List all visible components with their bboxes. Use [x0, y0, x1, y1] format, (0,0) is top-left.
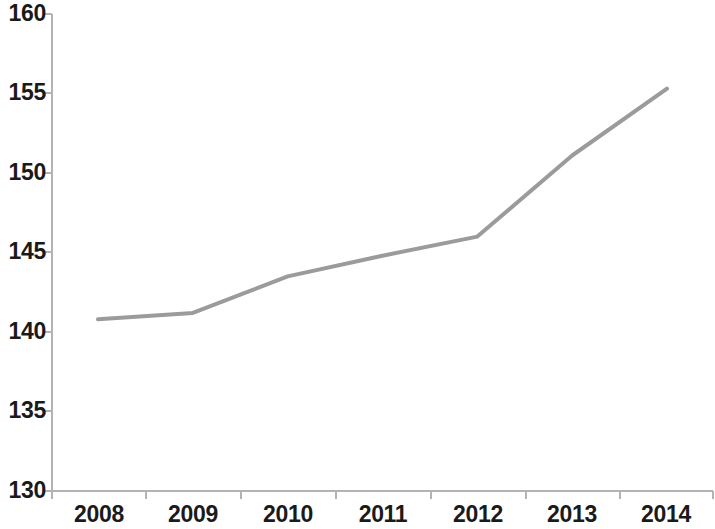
x-tick-label-2009: 2009 — [148, 503, 238, 526]
x-tick-label-2011: 2011 — [338, 503, 428, 526]
x-tick-label-2010: 2010 — [243, 503, 333, 526]
plot-area — [0, 0, 715, 529]
series-line — [98, 89, 667, 320]
y-tick-label-135: 135 — [0, 399, 46, 422]
x-tick-label-2012: 2012 — [433, 503, 523, 526]
x-axis-ticks — [52, 491, 713, 499]
y-tick-label-155: 155 — [0, 81, 46, 104]
y-tick-label-140: 140 — [0, 320, 46, 343]
y-tick-label-145: 145 — [0, 240, 46, 263]
x-tick-label-2008: 2008 — [54, 503, 144, 526]
y-tick-label-160: 160 — [0, 2, 46, 25]
line-chart: 160 155 150 145 140 135 130 2008 2009 20… — [0, 0, 715, 529]
x-tick-label-2013: 2013 — [527, 503, 617, 526]
y-tick-label-130: 130 — [0, 479, 46, 502]
y-tick-label-150: 150 — [0, 161, 46, 184]
x-tick-label-2014: 2014 — [621, 503, 711, 526]
